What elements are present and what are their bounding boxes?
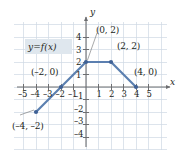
x-tick-label-5: 5 bbox=[147, 90, 152, 99]
x-tick-label-neg4: –4 bbox=[31, 90, 40, 99]
data-point-marker bbox=[34, 110, 38, 114]
y-tick-label-1: 1 bbox=[76, 71, 81, 80]
point-label-4-0: (4, 0) bbox=[134, 68, 157, 77]
function-label: y=f(x) bbox=[28, 42, 57, 52]
point-label-neg4-neg2: (–4, –2) bbox=[12, 122, 44, 131]
y-tick-label-3: 3 bbox=[76, 46, 81, 55]
point-label-0-2: (0, 2) bbox=[96, 26, 119, 35]
data-point-marker bbox=[84, 60, 88, 64]
point-label-2-2: (2, 2) bbox=[117, 42, 140, 51]
x-tick-label-neg3: –3 bbox=[43, 90, 52, 99]
x-axis-label: x bbox=[170, 78, 175, 87]
y-tick-label-4: 4 bbox=[76, 33, 81, 42]
function-label-operator: = bbox=[33, 42, 41, 52]
y-axis-label: y bbox=[90, 8, 95, 17]
x-tick-label-2: 2 bbox=[109, 90, 114, 99]
x-tick-label-neg5: –5 bbox=[18, 90, 27, 99]
function-graph-figure: y=f(x) x y –5 –4 –3 –2 –1 1 2 3 4 5 4 3 … bbox=[0, 0, 181, 159]
y-tick-label-neg2: –2 bbox=[74, 105, 83, 114]
y-tick-label-neg1: –1 bbox=[74, 92, 83, 101]
x-tick-label-neg2: –2 bbox=[56, 90, 65, 99]
x-tick-label-4: 4 bbox=[134, 90, 139, 99]
function-label-rhs: f(x) bbox=[41, 42, 57, 52]
x-tick-label-3: 3 bbox=[122, 90, 127, 99]
y-tick-label-2: 2 bbox=[76, 58, 81, 67]
x-tick-label-1: 1 bbox=[97, 90, 102, 99]
data-point-marker bbox=[109, 60, 113, 64]
y-tick-label-neg3: –3 bbox=[74, 117, 83, 126]
point-label-neg2-0: (–2, 0) bbox=[31, 68, 58, 77]
y-tick-label-neg4: –4 bbox=[74, 130, 83, 139]
coordinate-plane bbox=[0, 0, 181, 159]
